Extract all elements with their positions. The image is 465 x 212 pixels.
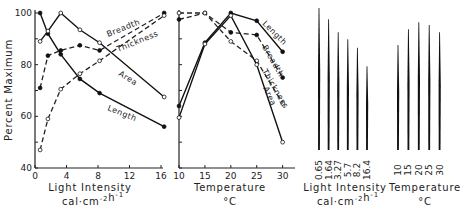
data-point bbox=[203, 42, 207, 46]
data-point bbox=[78, 72, 82, 76]
y-tick-label: 80 bbox=[21, 60, 33, 70]
bar-shape bbox=[397, 45, 399, 150]
data-point bbox=[255, 19, 259, 23]
data-point bbox=[38, 11, 42, 15]
data-point bbox=[229, 40, 233, 44]
data-point bbox=[162, 95, 166, 99]
figure: Percent Maximum4060801000481216BreadthTh… bbox=[0, 0, 465, 212]
x-tick-label: 12 bbox=[124, 171, 135, 181]
data-point bbox=[98, 41, 102, 45]
data-point bbox=[177, 104, 181, 108]
x-axis-units: cal·cm-2h-1 bbox=[317, 191, 379, 207]
data-point bbox=[177, 18, 181, 22]
y-tick-label: 100 bbox=[15, 8, 32, 18]
data-point bbox=[46, 29, 50, 33]
x-tick-label: 16 bbox=[155, 171, 167, 181]
x-axis-units: °C bbox=[418, 196, 432, 207]
data-point bbox=[162, 14, 166, 18]
x-axis-units: cal·cm-2h-1 bbox=[62, 191, 124, 207]
data-point bbox=[46, 54, 50, 58]
bar bbox=[356, 48, 358, 150]
data-point bbox=[59, 11, 63, 15]
bar-shape bbox=[328, 19, 330, 150]
category-label: 15 bbox=[403, 164, 413, 175]
data-point bbox=[281, 140, 285, 144]
x-tick-label: 10 bbox=[173, 171, 185, 181]
data-point bbox=[255, 63, 259, 67]
bar bbox=[439, 32, 441, 150]
data-point bbox=[162, 125, 166, 129]
bar bbox=[347, 39, 349, 150]
data-point bbox=[98, 91, 102, 95]
series-area bbox=[38, 11, 166, 99]
bar bbox=[318, 8, 320, 150]
series-breadth bbox=[38, 11, 166, 90]
data-point bbox=[177, 11, 181, 15]
bar-shape bbox=[337, 32, 339, 150]
bar-shape bbox=[428, 25, 430, 150]
panel-bars-temperature: 1015202530Temperature°C bbox=[388, 22, 461, 207]
data-point bbox=[98, 49, 102, 53]
bar bbox=[418, 22, 420, 150]
data-point bbox=[78, 43, 82, 47]
category-label: 16.4 bbox=[362, 160, 372, 180]
x-axis-label: Temperature bbox=[193, 182, 266, 193]
data-point bbox=[203, 11, 207, 15]
bar bbox=[397, 45, 399, 150]
data-point bbox=[229, 14, 233, 18]
bar-shape bbox=[366, 66, 368, 150]
x-tick-label: 8 bbox=[95, 171, 101, 181]
series-label-length: Length bbox=[106, 104, 138, 124]
category-label: 25 bbox=[424, 164, 434, 175]
category-label: 0.65 bbox=[314, 160, 324, 180]
category-label: 1.64 bbox=[324, 160, 334, 180]
x-tick-label: 25 bbox=[251, 171, 262, 181]
panel-light-intensity: 4060801000481216BreadthThicknessAreaLeng… bbox=[15, 8, 167, 207]
data-point bbox=[98, 59, 102, 63]
bar-shape bbox=[347, 39, 349, 150]
data-point bbox=[78, 28, 82, 32]
bar-shape bbox=[439, 32, 441, 150]
x-axis-units: °C bbox=[223, 196, 237, 207]
data-point bbox=[177, 116, 181, 120]
bar bbox=[407, 29, 409, 150]
bar bbox=[337, 32, 339, 150]
y-tick-label: 40 bbox=[21, 163, 33, 173]
data-point bbox=[38, 40, 42, 44]
data-point bbox=[78, 77, 82, 81]
bar-shape bbox=[407, 29, 409, 150]
bar bbox=[428, 25, 430, 150]
panel-temperature: 1015202530LengthBreadthThicknessAreaTemp… bbox=[173, 10, 295, 207]
x-tick-label: 30 bbox=[277, 171, 289, 181]
category-label: 8.2 bbox=[352, 163, 362, 177]
series-length bbox=[38, 11, 166, 128]
data-point bbox=[59, 52, 63, 56]
bar-shape bbox=[318, 8, 320, 150]
category-label: 20 bbox=[414, 164, 424, 176]
x-tick-label: 4 bbox=[64, 171, 70, 181]
bar bbox=[328, 19, 330, 150]
x-tick-label: 20 bbox=[225, 171, 237, 181]
y-axis-label: Percent Maximum bbox=[3, 39, 14, 141]
data-point bbox=[38, 148, 42, 152]
data-point bbox=[281, 50, 285, 54]
category-label: 30 bbox=[435, 164, 445, 176]
category-label: 5.7 bbox=[343, 163, 353, 177]
x-tick-label: 0 bbox=[32, 171, 38, 181]
category-label: 10 bbox=[393, 164, 403, 176]
data-point bbox=[59, 49, 63, 53]
x-tick-label: 15 bbox=[199, 171, 210, 181]
data-point bbox=[38, 86, 42, 90]
y-tick-label: 60 bbox=[21, 111, 33, 121]
data-point bbox=[229, 30, 233, 34]
data-point bbox=[46, 117, 50, 121]
panel-bars-light: 0.651.643.275.78.216.4Light Intensitycal… bbox=[303, 8, 387, 207]
series-label-area: Area bbox=[117, 69, 139, 87]
bar-shape bbox=[356, 48, 358, 150]
category-label: 3.27 bbox=[333, 160, 343, 180]
x-axis-label: Temperature bbox=[388, 182, 461, 193]
bar-shape bbox=[418, 22, 420, 150]
data-point bbox=[255, 33, 259, 37]
bar bbox=[366, 66, 368, 150]
data-point bbox=[59, 87, 63, 91]
